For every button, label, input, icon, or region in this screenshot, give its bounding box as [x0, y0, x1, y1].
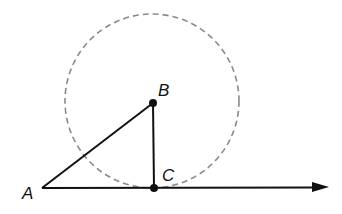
- label-a: A: [21, 184, 33, 203]
- segment-ab: [42, 103, 153, 188]
- segment-bc: [153, 103, 154, 188]
- label-c: C: [162, 166, 175, 185]
- point-b: [149, 99, 157, 107]
- ray-ac: [42, 188, 314, 189]
- label-b: B: [158, 81, 169, 100]
- arrowhead-icon: [312, 182, 329, 192]
- geometry-diagram: A B C: [0, 0, 342, 214]
- point-c: [150, 184, 158, 192]
